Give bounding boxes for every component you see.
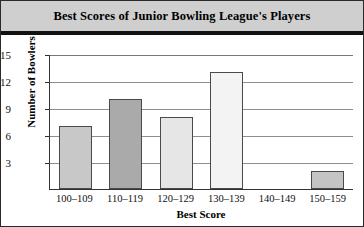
bar-130-139[interactable] — [210, 72, 243, 189]
bar-slot — [151, 55, 202, 189]
x-tick-label-150-159: 150–159 — [302, 193, 353, 204]
x-tick-label-140-149: 140–149 — [252, 193, 303, 204]
bar-slot — [101, 55, 152, 189]
x-tick-label-110-119: 110–119 — [100, 193, 151, 204]
title-band: Best Scores of Junior Bowling League's P… — [1, 1, 363, 31]
bar-100-109[interactable] — [59, 126, 92, 189]
x-axis-title: Best Score — [49, 208, 353, 220]
x-tick-label-130-139: 130–139 — [201, 193, 252, 204]
bar-group — [50, 55, 353, 189]
title-divider — [1, 31, 363, 35]
bar-slot — [202, 55, 253, 189]
chart-figure: Best Scores of Junior Bowling League's P… — [0, 0, 364, 227]
x-tick-label-120-129: 120–129 — [150, 193, 201, 204]
x-tick-label-100-109: 100–109 — [49, 193, 100, 204]
y-axis-title: Number of Bowlers — [25, 2, 37, 162]
bar-110-119[interactable] — [109, 99, 142, 189]
bar-120-129[interactable] — [160, 117, 193, 189]
bar-slot — [303, 55, 354, 189]
bar-150-159[interactable] — [311, 171, 344, 189]
y-tick-label-9: 9 — [0, 104, 11, 115]
plot-area — [49, 55, 353, 190]
bar-slot — [50, 55, 101, 189]
y-tick-label-3: 3 — [0, 158, 11, 169]
chart-title: Best Scores of Junior Bowling League's P… — [54, 9, 311, 24]
y-tick-label-15: 15 — [0, 50, 11, 61]
y-tick-label-6: 6 — [0, 131, 11, 142]
x-axis-ticks: 100–109 110–119 120–129 130–139 140–149 … — [49, 193, 353, 204]
y-tick-label-12: 12 — [0, 77, 11, 88]
bar-slot — [252, 55, 303, 189]
